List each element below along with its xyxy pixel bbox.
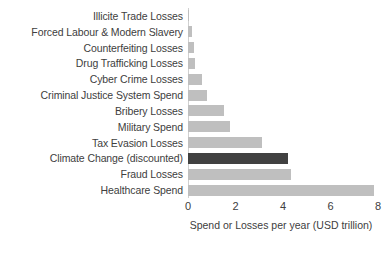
x-tick-label: 8: [375, 200, 381, 212]
category-label: Forced Labour & Modern Slavery: [31, 26, 183, 38]
bar-highlight: [188, 153, 288, 164]
x-tick-label: 4: [280, 200, 286, 212]
bar-track: [188, 8, 378, 24]
bar-track: [188, 40, 378, 56]
category-label: Bribery Losses: [115, 105, 183, 117]
table-row: Illicite Trade Losses: [0, 8, 389, 24]
category-label: Tax Evasion Losses: [92, 137, 183, 149]
bar: [188, 26, 192, 37]
bar: [188, 105, 224, 116]
category-label: Fraud Losses: [121, 168, 183, 180]
category-label: Counterfeiting Losses: [84, 42, 183, 54]
bar: [188, 137, 262, 148]
bar-track: [188, 166, 378, 182]
category-label: Military Spend: [118, 121, 183, 133]
table-row: Counterfeiting Losses: [0, 40, 389, 56]
x-tick-label: 2: [232, 200, 238, 212]
category-label: Cyber Crime Losses: [90, 73, 183, 85]
bar-chart: Illicite Trade Losses Forced Labour & Mo…: [0, 0, 389, 253]
bar: [188, 10, 189, 21]
x-axis-ticks: 0 2 4 6 8: [188, 200, 378, 216]
table-row: Cyber Crime Losses: [0, 71, 389, 87]
table-row: Fraud Losses: [0, 166, 389, 182]
bar: [188, 90, 207, 101]
bar: [188, 42, 194, 53]
x-axis-title: Spend or Losses per year (USD trillion): [186, 219, 376, 231]
bar-rows: Illicite Trade Losses Forced Labour & Mo…: [0, 8, 389, 198]
table-row: Climate Change (discounted): [0, 150, 389, 166]
category-label-highlight: Climate Change (discounted): [50, 152, 183, 164]
table-row: Criminal Justice System Spend: [0, 87, 389, 103]
bar-track: [188, 71, 378, 87]
bar-track: [188, 87, 378, 103]
x-tick-label: 0: [185, 200, 191, 212]
bar-track: [188, 135, 378, 151]
category-label: Criminal Justice System Spend: [41, 89, 183, 101]
table-row: Drug Trafficking Losses: [0, 55, 389, 71]
category-label: Illicite Trade Losses: [93, 10, 183, 22]
bar-track: [188, 24, 378, 40]
bar: [188, 74, 202, 85]
table-row: Bribery Losses: [0, 103, 389, 119]
bar: [188, 58, 195, 69]
bar-track: [188, 55, 378, 71]
table-row: Tax Evasion Losses: [0, 135, 389, 151]
bar: [188, 121, 230, 132]
bar-track: [188, 119, 378, 135]
bar: [188, 185, 374, 196]
bar-track: [188, 182, 378, 198]
table-row: Military Spend: [0, 119, 389, 135]
bar-track: [188, 103, 378, 119]
x-tick-label: 6: [327, 200, 333, 212]
category-label: Healthcare Spend: [101, 184, 183, 196]
bar-track: [188, 150, 378, 166]
table-row: Forced Labour & Modern Slavery: [0, 24, 389, 40]
table-row: Healthcare Spend: [0, 182, 389, 198]
bar: [188, 169, 291, 180]
category-label: Drug Trafficking Losses: [76, 57, 183, 69]
